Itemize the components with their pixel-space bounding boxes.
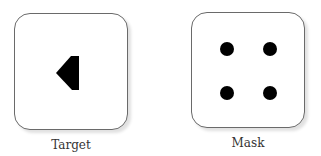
mask-dots-icon — [192, 13, 306, 129]
mask-panel — [191, 12, 305, 128]
target-panel — [14, 13, 128, 130]
target-shape-icon — [15, 14, 129, 131]
mask-caption: Mask — [191, 136, 305, 150]
target-caption: Target — [14, 138, 128, 152]
